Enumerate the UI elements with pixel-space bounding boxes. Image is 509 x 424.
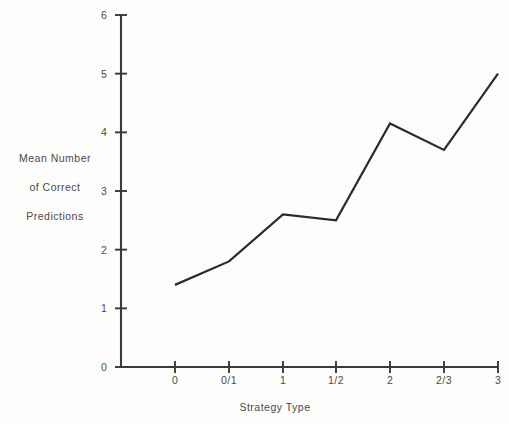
line-chart-figure: 0123456 00/111/222/33 Mean Numberof Corr… [0,0,509,424]
x-axis-title-text: Strategy Type [239,401,310,413]
x-tick-label-5: 2/3 [436,374,452,386]
x-axis-title: Strategy Type [239,401,310,413]
x-tick-label-0: 0 [172,374,178,386]
y-axis-title-line-1: of Correct [29,181,80,193]
y-tick-label-3: 3 [101,185,107,197]
chart-canvas: 0123456 00/111/222/33 Mean Numberof Corr… [0,0,509,424]
x-tick-label-3: 1/2 [328,374,344,386]
y-tick-label-1: 1 [101,302,107,314]
y-axis-title-line-0: Mean Number [19,152,91,164]
series-line-mean-correct-predictions [175,74,498,285]
x-axis [121,361,498,373]
y-tick-label-5: 5 [101,68,107,80]
x-tick-label-6: 3 [495,374,501,386]
y-tick-label-6: 6 [101,9,107,21]
x-tick-label-2: 1 [280,374,286,386]
y-tick-label-4: 4 [101,126,107,138]
y-tick-label-2: 2 [101,244,107,256]
y-axis-title-line-2: Predictions [26,210,83,222]
y-axis-tick-labels: 0123456 [101,9,107,373]
x-tick-label-1: 0/1 [221,374,237,386]
x-axis-tick-labels: 00/111/222/33 [172,374,501,386]
x-tick-label-4: 2 [387,374,393,386]
y-axis [115,15,127,367]
y-tick-label-0: 0 [101,361,107,373]
y-axis-title: Mean Numberof CorrectPredictions [19,152,91,222]
data-series-line [175,74,498,285]
